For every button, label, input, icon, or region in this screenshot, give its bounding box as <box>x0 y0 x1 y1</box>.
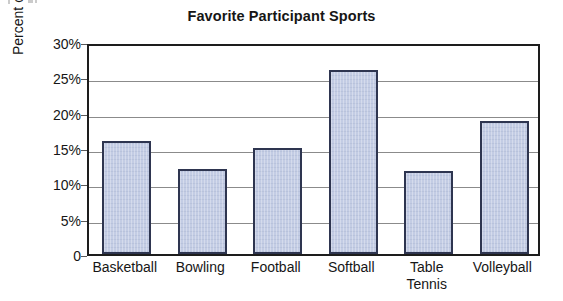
plot-area <box>87 44 540 256</box>
y-axis-title: Percent of Students Surveyed <box>6 0 30 68</box>
y-axis-ticks: 05%10%15%20%25%30% <box>33 44 81 256</box>
x-tick-label-line: Table <box>410 259 443 275</box>
x-tick-label-line: Football <box>251 259 301 275</box>
y-tick-label: 15% <box>37 142 81 158</box>
x-tick-label-line: Volleyball <box>473 259 532 275</box>
chart-title: Favorite Participant Sports <box>0 8 563 24</box>
bar-table-tennis <box>404 171 453 254</box>
x-tick-label-line: Softball <box>328 259 375 275</box>
y-tick-label: 5% <box>37 213 81 229</box>
x-tick-label-volleyball: Volleyball <box>447 259 557 276</box>
bar-softball <box>329 70 378 254</box>
y-tick-mark <box>81 256 87 257</box>
y-tick-label: 25% <box>37 71 81 87</box>
y-tick-label: 10% <box>37 177 81 193</box>
x-tick-label-line: Tennis <box>372 276 482 293</box>
bar-basketball <box>102 141 151 254</box>
bar-football <box>253 148 302 254</box>
x-axis-labels: BasketballBowlingFootballSoftballTableTe… <box>87 259 540 301</box>
x-tick-label-line: Bowling <box>176 259 225 275</box>
bar-bowling <box>178 169 227 254</box>
bars-layer <box>89 46 538 254</box>
y-tick-label: 20% <box>37 107 81 123</box>
bar-volleyball <box>480 121 529 254</box>
y-tick-label: 30% <box>37 36 81 52</box>
